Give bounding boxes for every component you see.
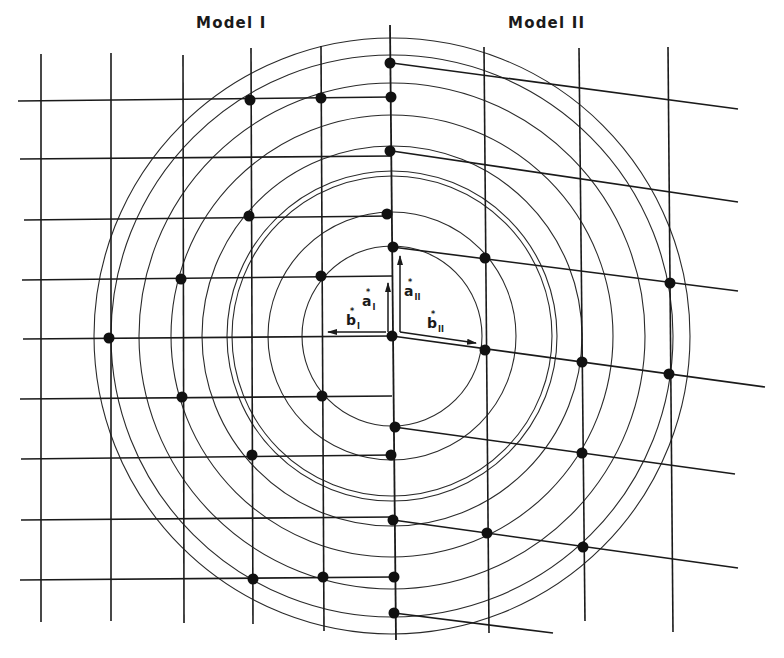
model-2-tilted-line — [392, 151, 738, 202]
reflection-dot — [388, 515, 399, 526]
model-1-horizontal-line — [24, 216, 392, 220]
label-sup: * — [408, 279, 412, 287]
model-2-tilted-line — [394, 613, 553, 633]
model-1-vertical-line — [321, 46, 324, 631]
vector-label-b2-star: b*II — [427, 316, 444, 330]
model-1-horizontal-line — [22, 276, 392, 280]
model-1-horizontal-line — [21, 517, 392, 520]
reflection-dot — [317, 391, 328, 402]
model-2-tilted-line — [394, 427, 735, 474]
reflection-dot — [577, 357, 588, 368]
label-sup: * — [350, 308, 354, 316]
reflection-dot — [244, 211, 255, 222]
model-1-vertical-line — [251, 48, 253, 624]
model-2-tilted-line — [392, 63, 738, 109]
model-2-vertical-line — [668, 47, 673, 632]
reflection-dot — [248, 574, 259, 585]
reflection-dot — [389, 608, 400, 619]
vector-label-a2-star: a*II — [404, 284, 420, 298]
reflection-dot — [104, 333, 115, 344]
reflection-dot — [386, 92, 397, 103]
reflection-dot — [382, 209, 393, 220]
reflection-dot — [480, 253, 491, 264]
reflection-dot — [482, 528, 493, 539]
vector-label-b1-star: b*I — [346, 313, 360, 327]
reflection-dot — [480, 345, 491, 356]
model-2-vertical-line — [484, 47, 489, 633]
vector-label-a1-star: a*I — [362, 294, 375, 308]
reflection-dot — [390, 422, 401, 433]
model-1-horizontal-line — [23, 336, 392, 339]
label-sub: I — [372, 303, 375, 312]
model-1-vertical-line — [183, 55, 184, 623]
model-1-horizontal-line — [18, 97, 392, 101]
label-sub: I — [357, 322, 360, 331]
reflection-dot — [247, 450, 258, 461]
model-2-title: Model II — [508, 14, 585, 32]
model-1-horizontal-line — [20, 577, 392, 580]
label-sub: II — [438, 325, 444, 334]
model-2-tilted-line — [393, 520, 738, 568]
model-2-vertical-line — [579, 48, 585, 621]
reflection-dot — [385, 146, 396, 157]
model-1-horizontal-line — [20, 156, 392, 159]
reflection-dot — [316, 271, 327, 282]
label-sup: * — [366, 289, 370, 297]
reflection-dot — [664, 369, 675, 380]
reflection-dot — [316, 93, 327, 104]
reflection-dot — [389, 572, 400, 583]
reflection-dot — [665, 278, 676, 289]
reflection-dot — [177, 392, 188, 403]
diagram-canvas: Model I Model II a*I b*I a*II b*II — [0, 0, 784, 658]
reciprocal-vectors — [328, 256, 476, 343]
reflection-dot — [385, 58, 396, 69]
lattice-diagram — [0, 0, 784, 658]
model-1-title: Model I — [196, 14, 267, 32]
reflection-dot — [578, 542, 589, 553]
model-1-horizontal-line — [20, 396, 392, 399]
reflection-dot — [318, 572, 329, 583]
reflection-dot — [577, 448, 588, 459]
label-sup: * — [431, 311, 435, 319]
reflection-dot — [176, 274, 187, 285]
model-1-lattice — [18, 46, 392, 631]
label-sub: II — [414, 293, 420, 302]
reflection-dot — [245, 95, 256, 106]
reflection-dot — [387, 331, 398, 342]
model-2-tilted-line — [392, 247, 738, 291]
reflection-dot — [386, 450, 397, 461]
reflection-dot — [388, 242, 399, 253]
